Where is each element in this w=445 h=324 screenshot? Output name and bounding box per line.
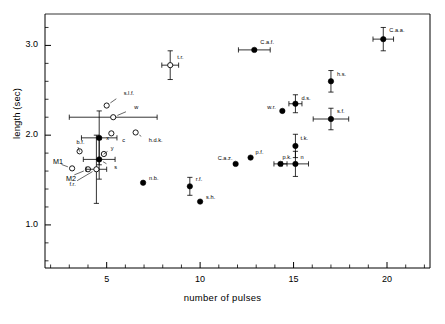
point-label: C.a.z. xyxy=(218,155,233,161)
point-label: C.a.a. xyxy=(389,27,404,33)
filled-circle-marker xyxy=(328,116,333,121)
point-label: s xyxy=(114,164,117,170)
open-circle-marker xyxy=(109,131,114,136)
data-point-group xyxy=(187,177,192,195)
scatter-plot-figure: length (sec) number of pulses 51015201.0… xyxy=(0,0,445,324)
label-leader-line xyxy=(110,99,116,103)
point-label: h.s. xyxy=(337,71,346,77)
filled-circle-marker xyxy=(280,108,285,113)
data-point-group xyxy=(77,135,107,203)
open-circle-marker xyxy=(94,167,99,172)
data-point-group xyxy=(140,180,145,185)
point-label: w xyxy=(134,104,138,110)
filled-circle-marker xyxy=(197,199,202,204)
filled-circle-marker xyxy=(293,143,298,148)
data-point-group xyxy=(233,161,238,166)
data-point-group xyxy=(104,99,116,108)
point-label: b.f. xyxy=(77,139,85,145)
point-label: s.f. xyxy=(337,108,345,114)
data-point-group xyxy=(62,164,75,170)
data-point-group xyxy=(101,151,107,156)
point-label: n.b. xyxy=(149,175,159,181)
point-label: M1 xyxy=(53,157,63,166)
data-point-group xyxy=(248,155,253,160)
point-label: r.f. xyxy=(196,176,202,182)
filled-circle-marker xyxy=(328,79,333,84)
data-point-group xyxy=(328,71,333,93)
data-point-group xyxy=(109,131,115,136)
filled-circle-marker xyxy=(248,155,253,160)
data-point-group xyxy=(293,134,298,157)
point-label: d.s. xyxy=(301,95,310,101)
y-axis-label: length (sec) xyxy=(11,54,22,174)
filled-circle-marker xyxy=(293,161,298,166)
point-label: t.k. xyxy=(300,135,308,141)
point-label: c xyxy=(122,137,125,143)
label-leader-line xyxy=(117,112,126,116)
point-label: p.k. xyxy=(282,154,291,160)
data-point-group xyxy=(197,199,202,204)
filled-circle-marker xyxy=(252,47,257,52)
point-label: n xyxy=(300,154,303,160)
point-label: s.l.f. xyxy=(124,90,135,96)
x-tick-label: 10 xyxy=(190,274,210,284)
label-leader-line xyxy=(139,135,141,136)
point-label: h.d.k. xyxy=(149,137,163,143)
open-circle-marker xyxy=(168,63,173,68)
y-tick-label: 1.0 xyxy=(14,219,38,229)
point-label: f.r. xyxy=(69,181,75,187)
point-label: C.a.f. xyxy=(260,39,274,45)
filled-circle-marker xyxy=(96,157,101,162)
filled-circle-marker xyxy=(187,184,192,189)
point-label: w.r. xyxy=(267,104,276,110)
data-point-group xyxy=(280,108,285,113)
open-circle-marker xyxy=(69,166,74,171)
y-tick-label: 2.0 xyxy=(14,129,38,139)
y-tick-label: 3.0 xyxy=(14,39,38,49)
x-axis-label: number of pulses xyxy=(0,292,445,303)
filled-circle-marker xyxy=(140,180,145,185)
point-label: t.r. xyxy=(177,54,183,60)
data-point-group xyxy=(69,112,157,120)
open-circle-marker xyxy=(111,115,116,120)
data-point-group xyxy=(162,51,179,80)
open-circle-marker xyxy=(104,103,109,108)
x-tick-label: 5 xyxy=(97,274,117,284)
label-leader-line xyxy=(103,162,106,164)
point-label: x xyxy=(106,135,109,141)
data-point-group xyxy=(238,47,270,52)
data-point-group xyxy=(289,95,302,113)
data-point-group xyxy=(77,147,82,154)
point-label: y xyxy=(111,145,114,151)
data-point-group xyxy=(74,167,90,175)
open-circle-marker xyxy=(133,130,138,135)
point-label: p.f. xyxy=(256,149,264,155)
filled-circle-marker xyxy=(381,36,386,41)
filled-circle-marker xyxy=(293,101,298,106)
point-label: s.h. xyxy=(206,194,215,200)
data-point-group xyxy=(133,130,141,136)
x-tick-label: 15 xyxy=(284,274,304,284)
x-tick-label: 20 xyxy=(377,274,397,284)
filled-circle-marker xyxy=(233,161,238,166)
